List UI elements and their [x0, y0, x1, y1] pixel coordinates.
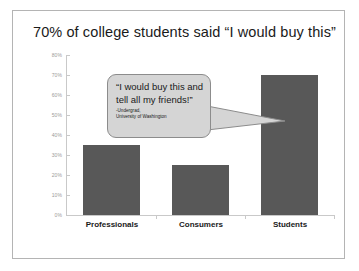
y-tick-label: 80%: [52, 52, 62, 58]
x-tick-mark: [156, 216, 157, 219]
callout-content: “I would buy this and tell all my friend…: [116, 81, 208, 121]
quote-line-1: “I would buy this and: [116, 81, 208, 94]
bar-professionals: [83, 145, 140, 215]
attribution-line-2: University of Washington: [116, 114, 208, 120]
y-tick-label: 10%: [52, 192, 62, 198]
y-tick-label: 50%: [52, 112, 62, 118]
bar-students: [261, 75, 318, 215]
y-tick-label: 30%: [52, 152, 62, 158]
callout-tail-icon: [207, 104, 285, 132]
x-label-professionals: Professionals: [72, 220, 152, 229]
y-tick-label: 20%: [52, 172, 62, 178]
x-axis-category-labels: Professionals Consumers Students: [67, 220, 335, 234]
x-tick-mark: [245, 216, 246, 219]
quote-callout: “I would buy this and tell all my friend…: [107, 74, 211, 138]
page-title: 70% of college students said “I would bu…: [33, 24, 336, 40]
x-label-consumers: Consumers: [161, 220, 241, 229]
quote-line-2: tell all my friends!”: [116, 94, 208, 107]
x-axis-line: [66, 215, 335, 216]
x-tick-mark: [334, 216, 335, 219]
slide-frame: 70% of college students said “I would bu…: [12, 10, 345, 259]
y-axis-tick-labels: 80% 70% 60% 50% 40% 30% 20% 10% 0%: [39, 55, 65, 215]
bar-consumers: [172, 165, 229, 215]
x-label-students: Students: [250, 220, 330, 229]
y-tick-label: 70%: [52, 72, 62, 78]
y-tick-label: 0%: [55, 212, 62, 218]
y-tick-label: 40%: [52, 132, 62, 138]
y-tick-label: 60%: [52, 92, 62, 98]
